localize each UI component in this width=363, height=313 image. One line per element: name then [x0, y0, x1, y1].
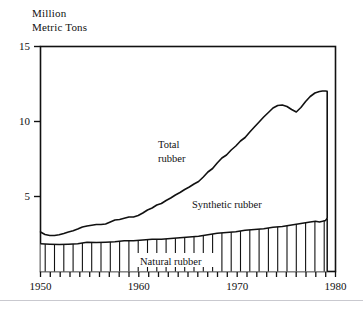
y-axis-tick-labels: 15 10 5: [19, 40, 31, 202]
x-tick-1970: 1970: [226, 280, 249, 292]
y-tick-15: 15: [19, 40, 31, 52]
x-axis-ticks: [41, 272, 336, 278]
x-axis-tick-labels: 1950 1960 1970 1980: [30, 280, 348, 292]
y-axis-ticks: [34, 47, 41, 197]
x-tick-1960: 1960: [128, 280, 151, 292]
label-natural-rubber: Natural rubber: [140, 256, 202, 267]
figure-container: Million Metric Tons 15 10 5: [0, 0, 363, 313]
y-tick-10: 10: [19, 115, 31, 127]
rubber-production-chart: 15 10 5: [0, 0, 363, 313]
x-tick-1950: 1950: [30, 280, 53, 292]
footer-divider: [0, 300, 363, 301]
label-total-rubber-line1: Total: [158, 139, 180, 150]
y-tick-5: 5: [25, 190, 31, 202]
x-tick-1980: 1980: [325, 280, 348, 292]
label-synthetic-rubber: Synthetic rubber: [192, 199, 262, 210]
label-total-rubber-line2: rubber: [158, 153, 186, 164]
